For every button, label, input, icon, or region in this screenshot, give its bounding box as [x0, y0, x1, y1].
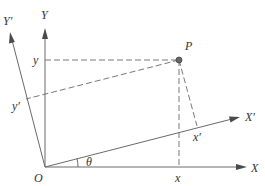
- point-p: [176, 57, 182, 63]
- coordinate-rotation-diagram: Y X Y′ X′ O P y x y′ x′ θ: [0, 0, 265, 186]
- label-y-coordinate: y: [32, 53, 39, 67]
- label-x-axis: X: [250, 161, 259, 175]
- x-prime-axis-arrow-icon: [229, 117, 240, 123]
- label-y-prime-coordinate: y′: [11, 99, 20, 113]
- theta-angle-arc: [77, 159, 78, 168]
- label-origin: O: [34, 171, 43, 185]
- label-x-prime-coordinate: x′: [192, 130, 201, 144]
- label-point-p: P: [184, 39, 193, 53]
- label-x-coordinate: x: [174, 171, 181, 185]
- projection-line-x-prime: [179, 60, 197, 126]
- label-y-axis: Y: [41, 8, 49, 22]
- projection-line-y-prime: [26, 60, 179, 99]
- label-theta: θ: [86, 155, 92, 169]
- x-prime-axis: [45, 119, 232, 167]
- label-x-prime-axis: X′: [244, 110, 255, 124]
- x-axis-arrow-icon: [236, 164, 247, 170]
- y-prime-axis-arrow-icon: [9, 32, 15, 44]
- y-axis-arrow-icon: [42, 28, 48, 39]
- label-y-prime-axis: Y′: [3, 14, 13, 28]
